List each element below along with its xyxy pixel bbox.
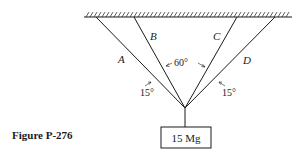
cable-label-b: B — [150, 30, 157, 42]
cable-label-a: A — [117, 53, 125, 65]
angle-label-15-left: 15° — [140, 87, 154, 98]
cable-label-d: D — [242, 54, 251, 66]
angle-arrow-15-left — [145, 82, 151, 86]
angle-label-60: 60° — [174, 57, 188, 68]
angle-label-15-right: 15° — [222, 87, 236, 98]
figure-caption: Figure P-276 — [12, 129, 73, 141]
ceiling-support — [84, 12, 292, 17]
angle-arrow-15-right — [219, 82, 225, 86]
cable-label-c: C — [213, 30, 221, 42]
load-label: 15 Mg — [171, 132, 201, 144]
